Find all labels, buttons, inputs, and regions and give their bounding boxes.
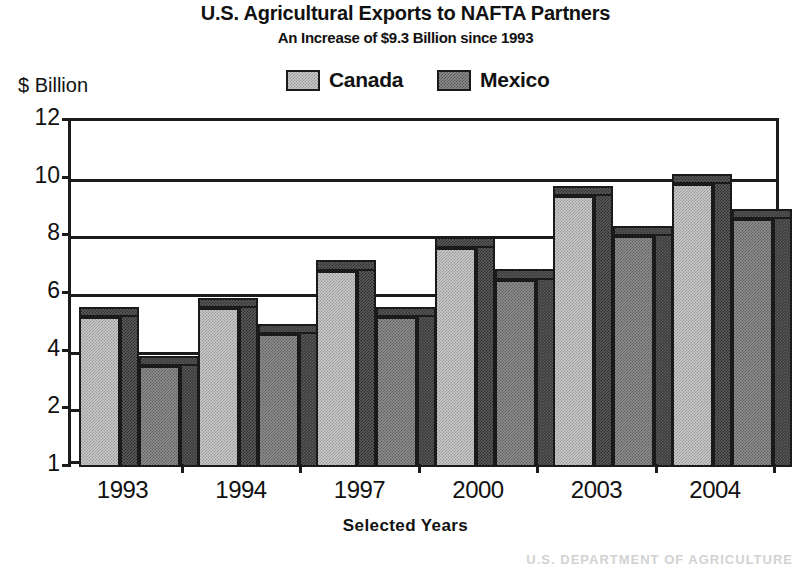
- x-axis-label: Selected Years: [0, 516, 811, 536]
- y-tick-label: 10: [14, 164, 60, 187]
- y-tick-label: 2: [14, 394, 60, 417]
- legend-label-canada: Canada: [329, 68, 403, 92]
- bar-top-face: [495, 269, 555, 279]
- x-tick-mark: [299, 464, 302, 473]
- x-tick-mark: [418, 464, 421, 473]
- x-tick-label-1994: 1994: [215, 477, 266, 503]
- plot-area: [68, 118, 779, 464]
- bar-top-face: [79, 307, 139, 317]
- chart-subtitle: An Increase of $9.3 Billion since 1993: [0, 29, 811, 46]
- y-tick-label: 6: [14, 279, 60, 302]
- bar-front-face: [732, 219, 773, 467]
- bar-top-face: [316, 260, 376, 270]
- y-tick-label: 4: [14, 337, 60, 360]
- gridline: [71, 294, 776, 297]
- legend-swatch-canada-icon: [286, 70, 320, 91]
- bar-top-face: [376, 307, 436, 317]
- x-tick-label-1993: 1993: [97, 477, 148, 503]
- gridline: [71, 179, 776, 182]
- y-tick-label: 8: [14, 221, 60, 244]
- bar-front-face: [316, 271, 357, 467]
- chart-title: U.S. Agricultural Exports to NAFTA Partn…: [0, 2, 811, 25]
- chart-legend: Canada Mexico: [286, 68, 549, 92]
- legend-swatch-mexico-icon: [437, 70, 471, 91]
- bar-side-face: [536, 269, 555, 467]
- bar-side-face: [594, 186, 613, 467]
- bar-front-face: [79, 317, 120, 467]
- x-tick-mark: [655, 464, 658, 473]
- x-tick-label-2003: 2003: [571, 477, 622, 503]
- bar-front-face: [376, 317, 417, 467]
- bar-side-face: [357, 260, 376, 467]
- bar-top-face: [613, 226, 673, 236]
- y-axis-ticks: 121086421: [0, 0, 60, 560]
- bar-side-face: [120, 307, 139, 467]
- x-tick-label-1997: 1997: [334, 477, 385, 503]
- bar-side-face: [654, 226, 673, 467]
- bar-front-face: [672, 184, 713, 467]
- source-note: U.S. DEPARTMENT OF AGRICULTURE: [0, 552, 811, 567]
- x-tick-mark: [536, 464, 539, 473]
- gridline: [71, 409, 776, 412]
- y-tick-label: 12: [14, 106, 60, 129]
- bar-front-face: [435, 248, 476, 467]
- y-tick-mark: [62, 464, 71, 467]
- bar-side-face: [299, 324, 318, 467]
- bar-side-face: [417, 307, 436, 467]
- x-tick-label-2000: 2000: [452, 477, 503, 503]
- legend-label-mexico: Mexico: [480, 68, 549, 92]
- bar-top-face: [258, 324, 318, 334]
- bar-front-face: [198, 308, 239, 467]
- bar-front-face: [495, 280, 536, 467]
- gridline: [71, 236, 776, 239]
- bar-top-face: [139, 356, 199, 366]
- bar-front-face: [139, 366, 180, 467]
- legend-item-canada[interactable]: Canada: [286, 68, 403, 92]
- bar-side-face: [239, 298, 258, 467]
- bar-side-face: [773, 209, 792, 467]
- bar-top-face: [553, 186, 613, 196]
- gridline: [71, 352, 776, 355]
- y-tick-label: 1: [14, 452, 60, 475]
- bar-side-face: [713, 174, 732, 467]
- bar-top-face: [198, 298, 258, 308]
- x-tick-label-2004: 2004: [689, 477, 740, 503]
- bar-top-face: [732, 209, 792, 219]
- x-tick-mark: [773, 464, 776, 473]
- legend-item-mexico[interactable]: Mexico: [437, 68, 549, 92]
- x-tick-mark: [181, 464, 184, 473]
